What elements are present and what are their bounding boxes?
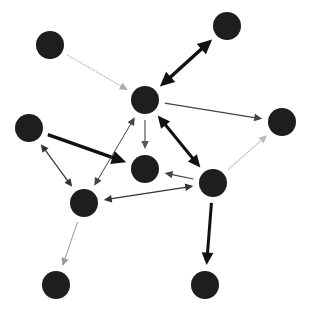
node-n1	[36, 31, 64, 59]
node-n10	[191, 271, 219, 299]
edge-n2-n3	[160, 39, 212, 86]
edge-line	[164, 123, 194, 159]
edge-line	[228, 140, 262, 170]
node-n4	[268, 108, 296, 136]
edge-n5-n8	[41, 144, 72, 187]
arrowhead-icon	[104, 195, 112, 202]
edge-n1-n3	[67, 55, 127, 90]
edge-line	[48, 135, 115, 159]
nodes-layer	[15, 12, 296, 299]
arrowhead-icon	[165, 171, 174, 178]
edge-line	[110, 187, 187, 199]
node-n8	[70, 189, 98, 217]
arrowhead-icon	[119, 83, 128, 90]
edge-n3-n6	[141, 120, 149, 149]
arrowhead-icon	[185, 184, 193, 191]
edge-line	[169, 47, 204, 78]
network-diagram	[0, 0, 312, 313]
arrowhead-icon	[128, 117, 135, 126]
arrowhead-icon	[41, 144, 49, 153]
arrowhead-icon	[64, 178, 72, 187]
edge-n7-n10	[202, 203, 214, 265]
arrowhead-icon	[94, 177, 101, 186]
edge-n3-n4	[165, 103, 263, 121]
edge-n3-n7	[158, 115, 201, 167]
edge-n8-n9	[61, 222, 77, 266]
edges-layer	[41, 39, 267, 266]
edge-line	[45, 149, 69, 181]
node-n6	[131, 155, 159, 183]
arrowhead-icon	[61, 257, 68, 266]
node-n9	[42, 271, 70, 299]
edge-line	[65, 222, 78, 260]
edge-line	[165, 103, 256, 118]
node-n5	[15, 114, 43, 142]
edge-n8-n7	[104, 184, 193, 203]
node-n7	[199, 169, 227, 197]
edge-n7-n6	[165, 171, 194, 179]
network-graph	[0, 0, 312, 313]
node-n3	[131, 86, 159, 114]
arrowhead-icon	[202, 252, 214, 265]
edge-line	[67, 55, 122, 87]
arrowhead-icon	[254, 114, 262, 121]
arrowhead-icon	[110, 151, 126, 164]
edge-line	[98, 123, 132, 180]
edge-n5-n6	[48, 135, 126, 164]
edge-line	[171, 174, 193, 179]
edge-n7-n4	[228, 135, 267, 170]
arrowhead-icon	[141, 141, 149, 149]
edge-line	[207, 203, 211, 255]
node-n2	[213, 12, 241, 40]
